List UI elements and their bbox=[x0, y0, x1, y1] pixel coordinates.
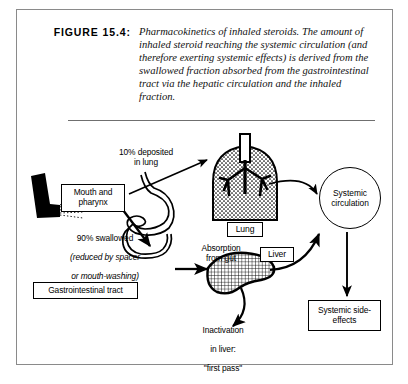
box-mouth-and-pharynx: Mouth and pharynx bbox=[61, 184, 125, 212]
box-liver: Liver bbox=[260, 247, 294, 262]
figure-caption-text: Pharmacokinetics of inhaled steroids. Th… bbox=[139, 25, 371, 104]
box-systemic-side-effects: Systemic side-effects bbox=[308, 300, 381, 331]
label-swallowed-percent: 90% swallowed bbox=[77, 233, 133, 243]
circle-systemic-circulation: Systemic circulation bbox=[319, 167, 381, 229]
box-gastrointestinal-tract: Gastrointestinal tract bbox=[33, 282, 138, 299]
caption-divider-rule bbox=[68, 120, 375, 121]
box-lung: Lung bbox=[227, 222, 263, 237]
lung-organ-icon bbox=[213, 134, 277, 220]
label-swallowed-note-1: (reduced by spacer bbox=[70, 252, 140, 262]
figure-number-label: FIGURE 15.4: bbox=[39, 26, 131, 38]
label-inactivation-line-3: "first pass" bbox=[204, 363, 242, 373]
label-deposited-in-lung: 10% deposited in lung bbox=[103, 148, 189, 167]
label-swallowed-fraction: 90% swallowed (reduced by spacer or mout… bbox=[57, 224, 153, 282]
figure-card: FIGURE 15.4: Pharmacokinetics of inhaled… bbox=[16, 9, 393, 365]
label-absorption-from-gut: Absorption from gut bbox=[190, 244, 252, 263]
figure-caption-block: FIGURE 15.4: Pharmacokinetics of inhaled… bbox=[17, 10, 392, 122]
pharmacokinetics-diagram: Mouth and pharynx Lung Liver Gastrointes… bbox=[17, 122, 394, 364]
label-swallowed-note-2: or mouth-washing) bbox=[71, 271, 139, 281]
label-inactivation-line-1: Inactivation bbox=[202, 325, 243, 335]
label-inactivation-line-2: in liver: bbox=[210, 344, 236, 354]
label-inactivation-in-liver: Inactivation in liver: "first pass" bbox=[187, 316, 259, 374]
